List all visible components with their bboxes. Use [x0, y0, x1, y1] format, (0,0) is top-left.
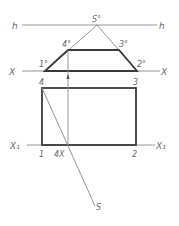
label-4: 4	[39, 78, 44, 87]
plan-rectangle	[42, 88, 136, 145]
label-3: 3	[133, 78, 138, 87]
ray-4-to-s	[42, 88, 95, 206]
perspective-trapezoid	[45, 50, 137, 71]
label-h-left: h	[12, 21, 18, 31]
label-4-prime: 4°	[62, 40, 71, 49]
label-s-prime: S°	[92, 15, 101, 24]
arrow-up-icon	[66, 74, 69, 79]
label-x1-left: X₁	[9, 141, 20, 151]
label-2-prime: 2°	[137, 60, 146, 69]
projection-diagram: h h X X X₁ X₁ S° 4° 3° 1° 2° 4 3 1 4X 2 …	[0, 0, 179, 226]
label-4x: 4X	[54, 150, 65, 159]
label-x-left: X	[8, 67, 16, 77]
label-s: S	[96, 203, 101, 212]
label-1: 1	[39, 150, 44, 159]
label-2: 2	[132, 150, 137, 159]
label-x-right: X	[160, 67, 168, 77]
label-h-right: h	[159, 21, 165, 31]
label-x1-right: X₁	[155, 141, 166, 151]
label-1-prime: 1°	[39, 60, 48, 69]
label-3-prime: 3°	[119, 40, 128, 49]
